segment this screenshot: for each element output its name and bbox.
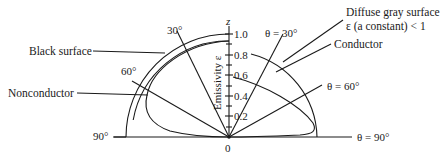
black-surface-leader <box>93 51 165 53</box>
diffuse-gray-label-2: ε (a constant) < 1 <box>346 20 426 33</box>
z-axis-label: z <box>225 15 231 27</box>
diffuse-gray-curve <box>251 54 317 137</box>
tick-label-0-2: 0.2 <box>234 110 248 122</box>
nonconductor-leader <box>77 93 148 95</box>
diffuse-gray-label-1: Diffuse gray surface <box>346 6 440 19</box>
right-angle-30: θ = 30° <box>265 27 297 39</box>
emissivity-polar-diagram: Black surface Nonconductor Diffuse gray … <box>0 0 442 157</box>
conductor-curve <box>229 77 314 137</box>
nonconductor-label: Nonconductor <box>8 87 74 99</box>
emissivity-axis-title: Emissivity ε <box>211 55 223 110</box>
left-angle-30: 30° <box>167 24 182 36</box>
tick-label-0-4: 0.4 <box>234 90 248 102</box>
left-angle-60: 60° <box>121 65 136 77</box>
tick-label-0-6: 0.6 <box>234 69 248 81</box>
right-angle-60: θ = 60° <box>327 80 359 92</box>
conductor-label: Conductor <box>334 38 383 50</box>
tick-label-1-0: 1.0 <box>234 28 248 40</box>
origin-label: 0 <box>225 142 231 154</box>
right-angle-90: θ = 90° <box>357 131 389 143</box>
left-angle-90: 90° <box>93 130 108 142</box>
black-surface-label: Black surface <box>29 45 92 57</box>
tick-label-0-8: 0.8 <box>234 49 248 61</box>
origin-dot <box>227 135 231 139</box>
